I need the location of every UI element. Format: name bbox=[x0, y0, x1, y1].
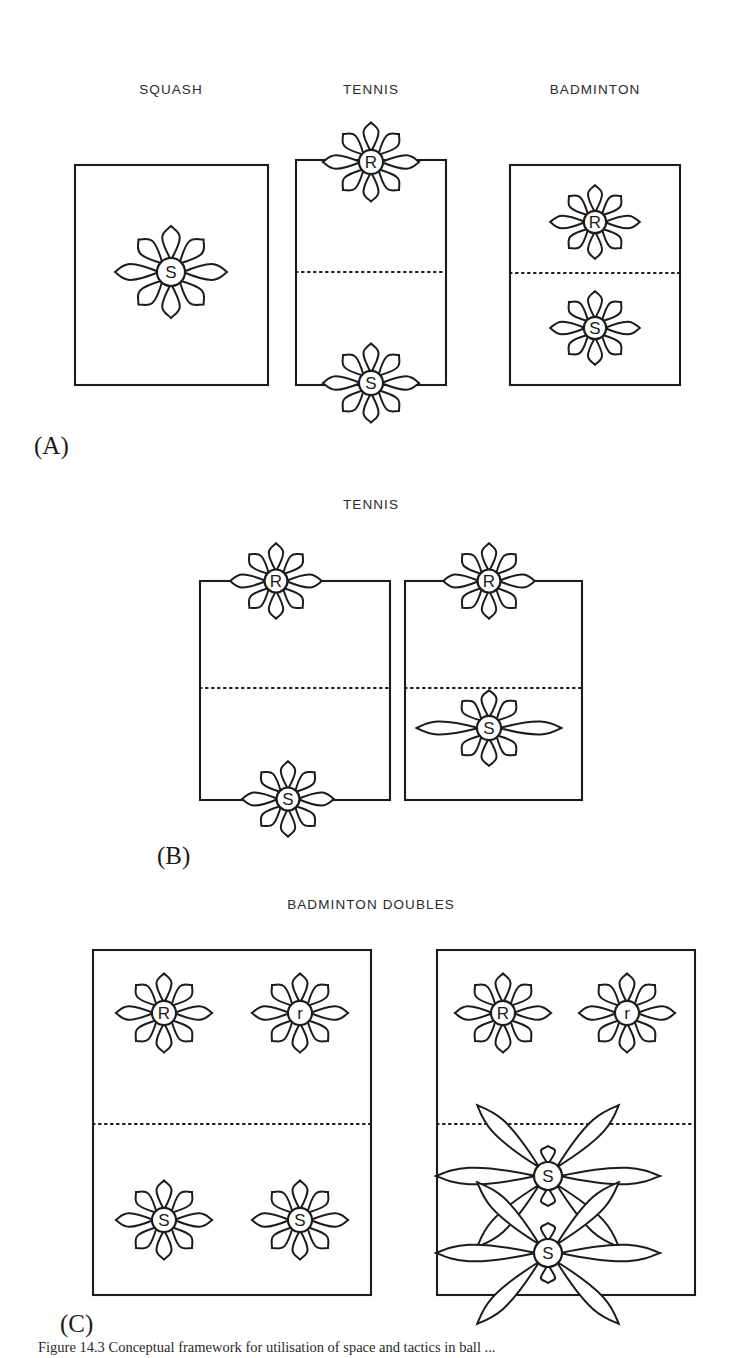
player-label: S bbox=[483, 719, 494, 738]
figure-caption: Figure 14.3 Conceptual framework for uti… bbox=[38, 1338, 718, 1358]
player-label: S bbox=[158, 1211, 169, 1230]
player-label: R bbox=[270, 572, 282, 591]
panel-title-tennis-left: TENNIS bbox=[343, 497, 399, 512]
section-label-A: (A) bbox=[34, 432, 69, 460]
player-label: S bbox=[165, 263, 176, 282]
section-A: SRSRS bbox=[75, 122, 680, 422]
panel-tennis-right: RS bbox=[405, 543, 582, 800]
player-label: R bbox=[365, 153, 377, 172]
petal bbox=[343, 390, 364, 411]
panel-badminton: RS bbox=[510, 165, 680, 385]
panel-title-badminton: BADMINTON bbox=[550, 82, 641, 97]
player-label: R bbox=[497, 1004, 509, 1023]
petal bbox=[261, 806, 281, 826]
petal bbox=[283, 554, 303, 574]
petal bbox=[363, 122, 378, 151]
player-label: S bbox=[365, 374, 376, 393]
petal bbox=[269, 543, 283, 571]
petal bbox=[496, 554, 516, 574]
petal bbox=[249, 554, 269, 574]
section-label-B: (B) bbox=[157, 842, 190, 870]
player-label: S bbox=[542, 1167, 553, 1186]
petal bbox=[363, 393, 378, 422]
petal bbox=[482, 543, 496, 571]
panel-title-tennis: TENNIS bbox=[343, 82, 399, 97]
petal bbox=[462, 554, 482, 574]
player-label: R bbox=[589, 213, 601, 232]
petal bbox=[378, 390, 399, 411]
section-label-C: (C) bbox=[60, 1310, 93, 1338]
panel-title-squash: SQUASH bbox=[139, 82, 203, 97]
player-label: S bbox=[542, 1244, 553, 1263]
player-label: S bbox=[282, 790, 293, 809]
section-C: RrSSRrSS bbox=[93, 950, 695, 1324]
player-label: R bbox=[483, 572, 495, 591]
panel-title-badminton-doubles-left: BADMINTON DOUBLES bbox=[287, 897, 455, 912]
panel-tennis-left: RS bbox=[200, 543, 390, 836]
panel-tennis: RS bbox=[296, 122, 446, 422]
panel-badminton-doubles-left: RrSS bbox=[93, 950, 371, 1295]
court-outline bbox=[437, 950, 695, 1295]
panel-badminton-doubles-right: RrSS bbox=[436, 950, 695, 1324]
panel-squash: S bbox=[75, 165, 268, 385]
petal bbox=[281, 809, 295, 837]
player-label: R bbox=[158, 1004, 170, 1023]
petal bbox=[378, 134, 399, 155]
player-label: r bbox=[624, 1004, 630, 1023]
petal bbox=[295, 806, 315, 826]
player-label: S bbox=[589, 319, 600, 338]
section-B: RSRS bbox=[200, 543, 582, 836]
player-label: S bbox=[294, 1211, 305, 1230]
player-label: r bbox=[297, 1004, 303, 1023]
petal bbox=[343, 134, 364, 155]
